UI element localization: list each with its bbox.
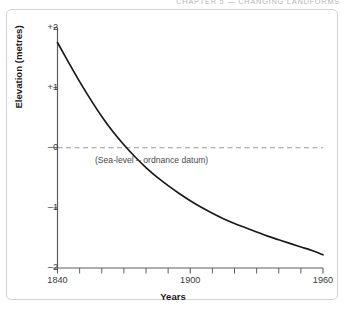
elevation-chart: +2+1–0–1–2 184019001960 (Sea-level – ord…: [0, 0, 346, 316]
x-axis-tick-label: 1960: [303, 275, 343, 285]
sea-level-datum-label: (Sea-level – ordnance datum): [95, 155, 208, 165]
x-axis-tick-label: 1900: [170, 275, 210, 285]
x-axis-tick-label: 1840: [38, 275, 78, 285]
y-axis-title: Elevation (metres): [13, 12, 27, 122]
x-axis-title: Years: [0, 291, 346, 302]
